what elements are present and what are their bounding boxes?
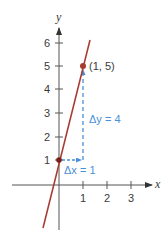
- delta-x-label: Δx = 1: [64, 165, 96, 176]
- point-1-5: [80, 63, 86, 69]
- y-tick-label-1: 1: [44, 155, 50, 166]
- point-label: (1, 5): [89, 61, 115, 72]
- y-axis-label: y: [56, 12, 61, 23]
- y-tick-label-5: 5: [44, 61, 50, 72]
- y-tick-label-2: 2: [44, 132, 50, 143]
- delta-y-label: Δy = 4: [89, 114, 121, 125]
- x-tick-label-3: 3: [128, 193, 134, 204]
- x-tick-label-2: 2: [104, 193, 110, 204]
- chart-canvas: [0, 0, 168, 240]
- x-tick-label-1: 1: [80, 193, 86, 204]
- y-tick-label-3: 3: [44, 108, 50, 119]
- x-axis-label: x: [155, 179, 160, 190]
- y-tick-label-4: 4: [44, 84, 50, 95]
- point-0-1: [56, 157, 62, 163]
- y-tick-label-6: 6: [44, 38, 50, 49]
